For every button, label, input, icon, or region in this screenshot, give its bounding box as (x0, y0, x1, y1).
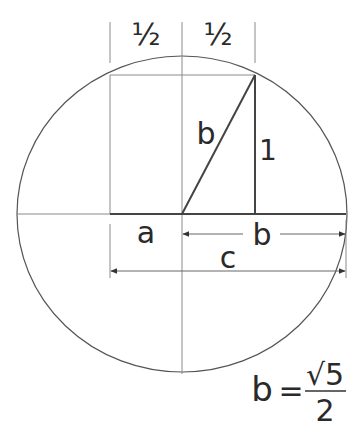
hypotenuse-b (182, 75, 255, 214)
formula-numerator: √5 (306, 357, 344, 392)
label-hypotenuse-b: b (196, 116, 215, 151)
label-seg-b: b (252, 217, 271, 252)
label-half-right: ½ (203, 17, 232, 52)
label-half-left: ½ (131, 17, 160, 52)
label-seg-a: a (137, 215, 155, 250)
formula-equals: = (278, 373, 303, 408)
label-side-1: 1 (259, 134, 277, 167)
formula-lhs: b (251, 369, 273, 409)
formula-denominator: 2 (315, 393, 334, 428)
golden-ratio-diagram: ½ ½ b 1 a b c b = √5 2 (0, 0, 354, 434)
label-seg-c: c (220, 240, 237, 275)
